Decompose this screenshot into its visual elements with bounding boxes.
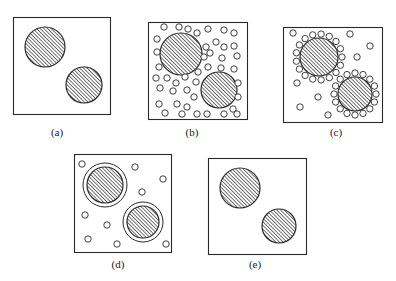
small-open-circle	[161, 24, 167, 30]
small-open-circle	[182, 74, 188, 80]
hatched-particle	[127, 206, 159, 238]
adsorbed-small-circle	[352, 112, 358, 118]
small-open-circle	[156, 101, 162, 107]
panel-label-d: (d)	[112, 259, 125, 270]
adsorbed-small-circle	[326, 74, 332, 80]
adsorbed-small-circle	[339, 54, 345, 60]
adsorbed-small-circle	[332, 99, 338, 105]
adsorbed-small-circle	[337, 46, 343, 52]
small-open-circle	[205, 26, 211, 32]
panel-a	[14, 18, 111, 115]
adsorbed-small-circle	[326, 33, 332, 39]
small-open-circle	[184, 104, 190, 110]
adsorbed-small-circle	[337, 62, 343, 68]
small-open-circle	[231, 30, 237, 36]
small-open-circle	[82, 212, 88, 218]
adsorbed-small-circle	[371, 83, 377, 89]
adsorbed-small-circle	[318, 77, 324, 83]
hatched-particle	[87, 167, 123, 203]
small-open-circle	[325, 112, 331, 118]
hatched-particle	[338, 77, 372, 111]
small-open-circle	[114, 241, 120, 247]
adsorbed-small-circle	[344, 71, 350, 77]
adsorbed-small-circle	[344, 110, 350, 116]
small-open-circle	[184, 87, 190, 93]
small-open-circle	[235, 80, 241, 86]
panel-frame	[209, 159, 307, 255]
adsorbed-small-circle	[337, 106, 343, 112]
small-open-circle	[160, 176, 166, 182]
adsorbed-small-circle	[296, 66, 302, 72]
small-open-circle	[367, 43, 373, 49]
hatched-particle	[262, 209, 296, 243]
small-open-circle	[201, 54, 207, 60]
small-open-circle	[104, 222, 110, 228]
small-open-circle	[294, 80, 300, 86]
small-open-circle	[213, 39, 219, 45]
small-open-circle	[235, 94, 241, 100]
panel-label-c: (c)	[330, 127, 342, 138]
small-open-circle	[174, 101, 180, 107]
small-open-circle	[156, 64, 162, 70]
small-open-circle	[231, 66, 237, 72]
small-open-circle	[85, 236, 91, 242]
hatched-particle	[25, 27, 65, 67]
small-open-circle	[347, 31, 353, 37]
adsorbed-small-circle	[310, 76, 316, 82]
small-open-circle	[162, 110, 168, 116]
small-open-circle	[221, 111, 227, 117]
panel-b	[149, 23, 248, 120]
hatched-particle	[201, 72, 237, 108]
small-open-circle	[207, 50, 213, 56]
small-open-circle	[193, 79, 199, 85]
adsorbed-small-circle	[296, 42, 302, 48]
small-open-circle	[170, 88, 176, 94]
small-open-circle	[191, 94, 197, 100]
small-open-circle	[153, 75, 159, 81]
adsorbed-small-circle	[302, 72, 308, 78]
small-open-circle	[290, 30, 296, 36]
small-open-circle	[195, 69, 201, 75]
hatched-particle	[300, 38, 338, 76]
adsorbed-small-circle	[333, 69, 339, 75]
panel-frame	[14, 18, 111, 115]
panel-label-b: (b)	[186, 127, 199, 138]
small-open-circle	[219, 55, 225, 61]
small-open-circle	[154, 36, 160, 42]
small-open-circle	[173, 80, 179, 86]
small-open-circle	[354, 54, 360, 60]
adsorbed-small-circle	[373, 91, 379, 97]
panel-e	[209, 159, 307, 255]
hatched-particle	[160, 33, 202, 75]
adsorbed-small-circle	[318, 31, 324, 37]
small-open-circle	[315, 94, 321, 100]
small-open-circle	[231, 43, 237, 49]
small-open-circle	[185, 26, 191, 32]
small-open-circle	[194, 30, 200, 36]
small-open-circle	[234, 111, 240, 117]
adsorbed-small-circle	[352, 70, 358, 76]
small-open-circle	[163, 241, 169, 247]
adsorbed-small-circle	[310, 32, 316, 38]
panel-label-a: (a)	[51, 127, 63, 138]
small-open-circle	[139, 189, 145, 195]
panel-c	[284, 28, 383, 123]
panel-d	[75, 155, 172, 253]
small-open-circle	[203, 44, 209, 50]
adsorbed-small-circle	[332, 83, 338, 89]
small-open-circle	[218, 65, 224, 71]
small-open-circle	[194, 111, 200, 117]
adsorbed-small-circle	[371, 99, 377, 105]
small-open-circle	[164, 75, 170, 81]
hatched-particle	[66, 67, 102, 103]
small-open-circle	[221, 27, 227, 33]
small-open-circle	[234, 53, 240, 59]
small-open-circle	[132, 164, 138, 170]
panel-label-e: (e)	[249, 259, 261, 270]
hatched-particle	[220, 168, 260, 208]
adsorbed-small-circle	[333, 38, 339, 44]
adsorbed-small-circle	[367, 76, 373, 82]
adsorbed-small-circle	[360, 71, 366, 77]
adsorbed-small-circle	[367, 106, 373, 112]
adsorbed-small-circle	[293, 50, 299, 56]
